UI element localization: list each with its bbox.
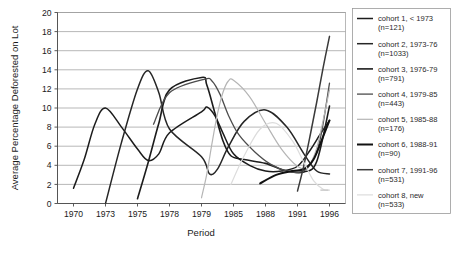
x-axis-title: Period xyxy=(187,227,214,238)
legend-label-cohort-6[interactable]: cohort 6, 1988-91 xyxy=(378,140,438,149)
legend-label-cohort-2[interactable]: cohort 2, 1973-76 xyxy=(378,40,438,49)
y-tick-label: 6 xyxy=(47,141,52,151)
legend-label-cohort-8[interactable]: cohort 8, new xyxy=(378,191,424,200)
legend-count-cohort-5: (n=176) xyxy=(378,124,405,133)
x-tick-label: 1996 xyxy=(320,209,339,219)
legend-label-cohort-4[interactable]: cohort 4, 1979-85 xyxy=(378,90,438,99)
x-tick-label: 1978 xyxy=(160,209,179,219)
legend-label-cohort-7[interactable]: cohort 7, 1991-96 xyxy=(378,166,438,175)
chart-svg: 02468101214161820 1970197319751978197919… xyxy=(0,0,456,255)
y-tick-label: 18 xyxy=(42,27,52,37)
y-tick-label: 20 xyxy=(42,8,52,18)
legend-count-cohort-7: (n=531) xyxy=(378,175,405,184)
legend-count-cohort-8: (n=533) xyxy=(378,200,405,209)
x-tick-label: 1991 xyxy=(288,209,307,219)
legend-count-cohort-4: (n=443) xyxy=(378,99,405,108)
y-tick-label: 2 xyxy=(47,180,52,190)
chart-figure: 02468101214161820 1970197319751978197919… xyxy=(0,0,456,255)
y-tick-label: 14 xyxy=(42,65,52,75)
y-tick-label: 12 xyxy=(42,84,52,94)
y-tick-label: 8 xyxy=(47,122,52,132)
x-tick-label: 1973 xyxy=(96,209,115,219)
x-tick-label: 1975 xyxy=(128,209,147,219)
y-tick-label: 4 xyxy=(47,160,52,170)
x-tick-label: 1970 xyxy=(64,209,83,219)
x-tick-label: 1979 xyxy=(192,209,211,219)
y-axis-title: Average Percentage Deforested on Lot xyxy=(9,25,20,190)
x-tick-label: 1985 xyxy=(224,209,243,219)
legend-label-cohort-1[interactable]: cohort 1, < 1973 xyxy=(378,14,433,23)
y-tick-label: 0 xyxy=(47,199,52,209)
x-tick-label: 1988 xyxy=(256,209,275,219)
legend-count-cohort-3: (n=791) xyxy=(378,74,405,83)
legend-count-cohort-2: (n=1033) xyxy=(378,49,409,58)
y-tick-label: 16 xyxy=(42,46,52,56)
y-tick-label: 10 xyxy=(42,103,52,113)
legend-count-cohort-1: (n=121) xyxy=(378,23,405,32)
legend-count-cohort-6: (n=90) xyxy=(378,149,401,158)
legend-label-cohort-3[interactable]: cohort 3, 1976-79 xyxy=(378,65,438,74)
legend-label-cohort-5[interactable]: cohort 5, 1985-88 xyxy=(378,115,438,124)
